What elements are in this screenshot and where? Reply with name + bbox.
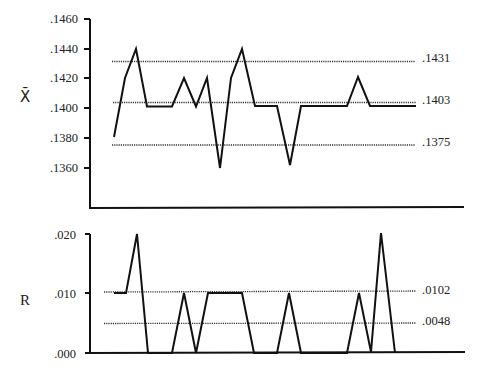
- r-ucl-line: [104, 291, 416, 292]
- range-chart: R .020 .010 .000 .0102 .0048: [20, 228, 465, 361]
- r-control-limits: .0102 .0048: [104, 283, 450, 328]
- y-tick-label: .010: [54, 287, 76, 301]
- xbar-axis-title: X̄: [20, 87, 30, 106]
- r-ucl-label: .0102: [422, 283, 450, 297]
- chart-canvas: X̄ .1460 .1440 .1420 .1400 .1380 .1360: [0, 0, 487, 380]
- r-center-line: [104, 323, 416, 324]
- y-tick-label: .1400: [50, 101, 78, 115]
- y-axis-label: X̄: [20, 87, 30, 106]
- r-y-tick-labels: .020 .010 .000: [54, 228, 76, 361]
- control-chart-figure: X̄ .1460 .1440 .1420 .1400 .1380 .1360: [0, 0, 487, 380]
- xbar-axes: [90, 19, 464, 208]
- xbar-y-tick-labels: .1460 .1440 .1420 .1400 .1380 .1360: [50, 12, 78, 175]
- y-tick-label: .000: [54, 347, 76, 361]
- lcl-label: .1375: [422, 135, 450, 149]
- xbar-chart: X̄ .1460 .1440 .1420 .1400 .1380 .1360: [20, 12, 464, 208]
- center-label: .1403: [422, 93, 450, 107]
- y-tick-label: .1360: [50, 161, 78, 175]
- y-tick-label: .1440: [50, 42, 78, 56]
- y-axis-label: R: [20, 292, 30, 308]
- y-tick-label: .1460: [50, 12, 78, 26]
- y-tick-label: .020: [54, 228, 76, 242]
- y-tick-label: .1380: [50, 131, 78, 145]
- r-center-label: .0048: [422, 314, 450, 328]
- r-series-line: [114, 233, 395, 353]
- xbar-series-line: [114, 49, 416, 168]
- y-tick-label: .1420: [50, 71, 78, 85]
- ucl-label: .1431: [422, 51, 450, 65]
- xbar-control-limits: .1431 .1403 .1375: [112, 51, 450, 149]
